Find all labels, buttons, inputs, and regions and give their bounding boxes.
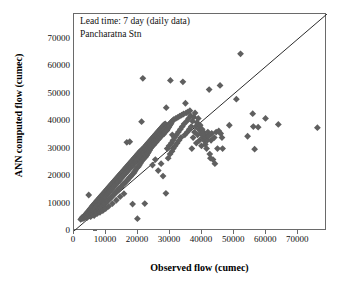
data-point: [163, 190, 170, 197]
data-point: [129, 201, 136, 208]
data-point: [160, 173, 167, 180]
data-point: [138, 118, 145, 125]
x-tick-mark: [297, 230, 298, 234]
data-point: [314, 124, 321, 131]
x-tick-label: 50000: [222, 234, 245, 244]
data-point: [139, 75, 146, 82]
x-tick-label: 0: [71, 234, 76, 244]
data-point: [244, 133, 251, 140]
data-point: [163, 104, 170, 111]
data-point: [158, 160, 165, 167]
x-tick-label: 10000: [94, 234, 117, 244]
data-point: [233, 96, 240, 103]
y-tick-label: 60000: [26, 60, 70, 70]
y-tick-label: 10000: [26, 198, 70, 208]
data-point: [134, 215, 141, 222]
y-axis-ticks: 010000200003000040000500006000070000: [20, 0, 70, 290]
x-tick-mark: [201, 230, 202, 234]
x-tick-mark: [169, 230, 170, 234]
annotation-line-lead-time: Lead time: 7 day (daily data): [80, 15, 190, 28]
x-tick-label: 40000: [190, 234, 213, 244]
data-point: [255, 124, 262, 131]
y-tick-label: 70000: [26, 33, 70, 43]
data-point: [155, 167, 162, 174]
data-point: [167, 77, 174, 84]
x-tick-mark: [105, 230, 106, 234]
data-point: [182, 100, 189, 107]
annotation-line-station: Pancharatna Stn: [80, 28, 190, 41]
data-point: [237, 50, 244, 57]
plot-annotation: Lead time: 7 day (daily data) Pancharatn…: [80, 15, 190, 40]
x-tick-label: 70000: [286, 234, 309, 244]
scatter-plot-figure: ANN computed flow (cumec) 01000020000300…: [0, 0, 337, 290]
y-tick-label: 20000: [26, 170, 70, 180]
y-tick-label: 50000: [26, 88, 70, 98]
data-point: [149, 162, 156, 169]
x-axis-title: Observed flow (cumec): [73, 262, 326, 273]
data-points-group: [77, 50, 320, 222]
x-tick-mark: [265, 230, 266, 234]
data-point: [206, 86, 213, 93]
y-tick-label: 30000: [26, 143, 70, 153]
plot-canvas: [74, 14, 327, 231]
y-tick-label: 40000: [26, 115, 70, 125]
data-point: [275, 121, 282, 128]
data-point: [141, 200, 148, 207]
x-tick-mark: [233, 230, 234, 234]
data-point: [226, 122, 233, 129]
data-point: [217, 82, 224, 89]
y-tick-label: 0: [26, 225, 70, 235]
x-tick-label: 20000: [126, 234, 149, 244]
x-tick-label: 30000: [158, 234, 181, 244]
x-tick-mark: [137, 230, 138, 234]
plot-area: [73, 13, 326, 230]
data-point: [179, 78, 186, 85]
data-point: [188, 145, 195, 152]
data-point: [219, 145, 226, 152]
data-point: [152, 156, 159, 163]
data-point: [85, 192, 92, 199]
data-point: [262, 115, 269, 122]
data-point: [249, 110, 256, 117]
x-tick-label: 60000: [254, 234, 277, 244]
data-point: [251, 146, 258, 153]
x-tick-mark: [73, 230, 74, 234]
